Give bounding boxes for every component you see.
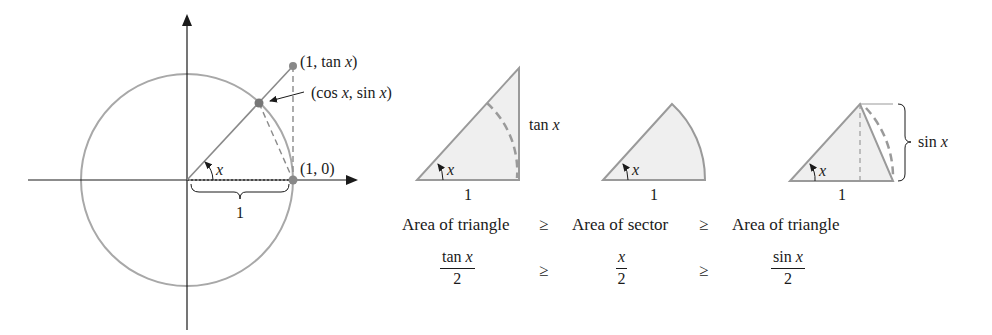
pointer-arrow [270,92,304,101]
fraction-tan-denominator: 2 [453,269,461,288]
label-angle-x: x [216,162,223,178]
label-outer-base-one: 1 [464,187,472,203]
fraction-x-numerator: x [616,248,627,269]
label-sin-x: sin x [918,134,948,150]
row1-area-triangle-left: Area of triangle [402,216,510,233]
fraction-tan-numerator: tan x [440,248,475,269]
label-sector-base-one: 1 [650,187,658,203]
sector-shape [603,104,705,180]
label-point-one-zero: (1, 0) [300,161,335,177]
label-inner-base-one: 1 [838,187,846,203]
row1-geq-2: ≥ [699,216,708,233]
sin-brace [898,104,911,181]
chord-dashed-line [259,103,293,180]
row1-area-sector: Area of sector [572,216,668,233]
radius-brace [191,184,289,199]
fraction-sin-x-over-2: sin x 2 [771,248,805,287]
label-sector-angle-x: x [632,162,639,178]
label-outer-angle-x: x [447,162,454,178]
point-one-zero [289,176,298,185]
diagram-canvas [0,0,992,335]
inner-triangle-figure [790,104,911,181]
row2-geq-2: ≥ [699,262,708,279]
label-radius-one: 1 [236,205,244,221]
label-point-cos-sin: (cos x, sin x) [311,85,392,101]
row2-geq-1: ≥ [539,262,548,279]
row1-area-triangle-right: Area of triangle [732,216,840,233]
angle-arc [205,162,213,180]
label-tan-x: tan x [529,117,560,133]
point-tan [289,62,297,70]
row1-geq-1: ≥ [539,216,548,233]
fraction-sin-denominator: 2 [784,269,792,288]
fraction-x-over-2: x 2 [616,248,627,287]
fraction-sin-numerator: sin x [771,248,805,269]
outer-triangle-figure [417,68,519,180]
fraction-tan-x-over-2: tan x 2 [440,248,475,287]
point-cos-sin [255,99,264,108]
inner-triangle-shape [790,104,893,181]
label-point-tan: (1, tan x) [300,54,357,70]
sector-figure [603,104,705,180]
tan-x-text: tan x [529,116,560,133]
fraction-x-denominator: 2 [618,269,626,288]
label-inner-angle-x: x [819,163,826,179]
